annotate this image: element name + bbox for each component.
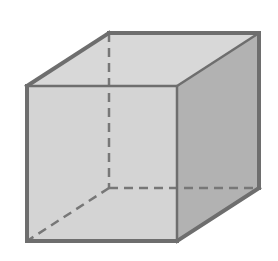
cube-drawing — [0, 0, 278, 261]
front-face — [27, 86, 177, 241]
cube-diagram — [0, 0, 278, 261]
